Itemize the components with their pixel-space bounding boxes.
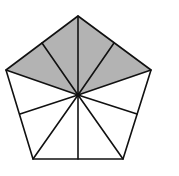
pentagon-diagram [0, 0, 179, 176]
center-point [76, 93, 80, 97]
